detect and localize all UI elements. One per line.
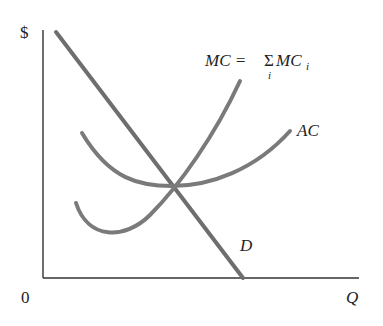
mc-label: MC = Σ i MC i — [204, 51, 309, 81]
mc-i-label: MC — [275, 51, 302, 70]
cost-demand-diagram: $ 0 Q D AC MC = Σ i MC i — [0, 0, 383, 326]
y-axis-label: $ — [20, 23, 29, 42]
demand-label: D — [239, 236, 253, 255]
sigma-subscript: i — [268, 69, 271, 81]
mc-i-subscript: i — [306, 60, 309, 72]
ac-label: AC — [296, 121, 319, 140]
sigma-symbol: Σ — [264, 51, 274, 70]
mc-label-main: MC = — [204, 51, 246, 70]
average-cost-curve — [82, 131, 290, 186]
origin-label: 0 — [21, 288, 30, 307]
x-axis-label: Q — [346, 288, 358, 307]
